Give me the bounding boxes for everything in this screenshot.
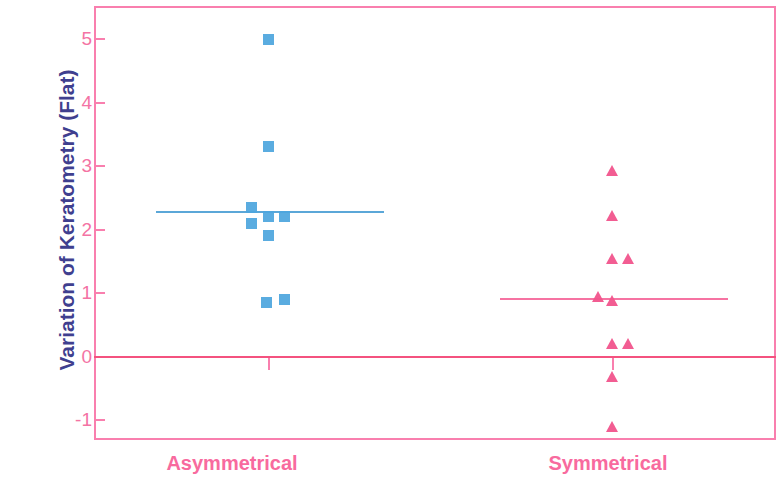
data-point-asymmetrical: [263, 34, 274, 45]
data-point-symmetrical: [606, 210, 618, 221]
data-point-asymmetrical: [246, 218, 257, 229]
category-tick-asymmetrical: [268, 358, 270, 370]
y-tick-label: 5: [58, 29, 92, 48]
data-point-asymmetrical: [261, 297, 272, 308]
data-point-symmetrical: [606, 253, 618, 264]
data-point-asymmetrical: [263, 230, 274, 241]
y-axis-ticks: 543210-1: [48, 0, 92, 488]
data-point-asymmetrical: [263, 211, 274, 222]
y-tick-label: 3: [58, 156, 92, 175]
data-point-symmetrical: [592, 291, 604, 302]
data-point-symmetrical: [622, 253, 634, 264]
y-tick-mark: [94, 102, 105, 104]
y-tick-label: -1: [58, 410, 92, 429]
y-tick-label: 1: [58, 283, 92, 302]
y-tick-label: 4: [58, 93, 92, 112]
y-tick-mark: [94, 419, 105, 421]
dot-plot-chart: Variation of Keratometry (Flat) 543210-1…: [0, 0, 778, 488]
category-tick-symmetrical: [612, 358, 614, 370]
y-tick-label: 0: [58, 347, 92, 366]
data-point-asymmetrical: [279, 211, 290, 222]
data-point-asymmetrical: [263, 141, 274, 152]
data-point-symmetrical: [606, 421, 618, 432]
x-axis-label-symmetrical: Symmetrical: [508, 452, 708, 475]
data-point-asymmetrical: [279, 294, 290, 305]
data-point-symmetrical: [606, 338, 618, 349]
data-point-asymmetrical: [246, 202, 257, 213]
zero-reference-line: [94, 356, 776, 358]
y-tick-mark: [94, 165, 105, 167]
y-tick-mark: [94, 38, 105, 40]
y-tick-mark: [94, 292, 105, 294]
data-point-symmetrical: [606, 295, 618, 306]
data-point-symmetrical: [622, 338, 634, 349]
plot-area-frame: [94, 6, 776, 440]
x-axis-label-asymmetrical: Asymmetrical: [132, 452, 332, 475]
data-point-symmetrical: [606, 165, 618, 176]
y-tick-mark: [94, 229, 105, 231]
data-point-symmetrical: [606, 371, 618, 382]
y-tick-label: 2: [58, 220, 92, 239]
